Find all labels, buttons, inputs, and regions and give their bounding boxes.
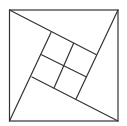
pinwheel-line-bottom bbox=[32, 77, 118, 121]
inner-divider-vertical bbox=[54, 44, 74, 89]
pinwheel-line-left bbox=[10, 33, 52, 122]
pinwheel-line-top bbox=[10, 10, 97, 55]
pinwheel-square-diagram bbox=[0, 0, 127, 126]
pinwheel-line-right bbox=[76, 10, 118, 99]
